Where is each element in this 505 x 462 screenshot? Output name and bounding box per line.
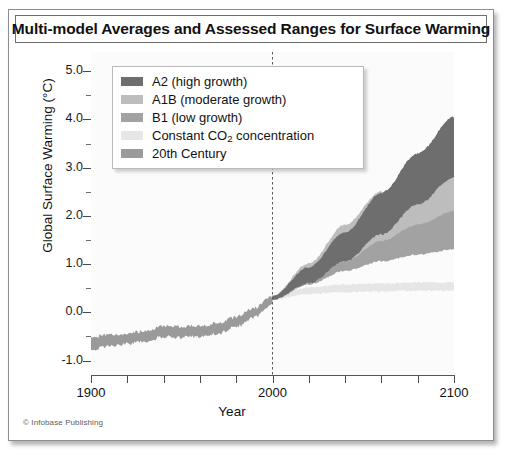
y-tick-mark-minor	[86, 336, 91, 337]
legend-swatch-icon	[121, 95, 143, 104]
legend-item: A2 (high growth)	[121, 72, 355, 90]
y-tick-mark-minor	[86, 240, 91, 241]
x-tick-mark	[418, 376, 419, 383]
y-tick-mark	[83, 119, 91, 120]
legend-swatch-icon	[121, 149, 143, 158]
y-tick-label: -1.0	[49, 353, 83, 367]
x-tick-mark	[127, 376, 128, 383]
y-tick-mark	[83, 361, 91, 362]
x-tick-label: 1900	[77, 385, 106, 400]
chart-legend: A2 (high growth)A1B (moderate growth)B1 …	[112, 66, 364, 169]
legend-swatch-icon	[121, 113, 143, 122]
x-axis-label-text: Year	[218, 404, 245, 419]
x-tick-mark	[200, 376, 201, 383]
x-tick-mark	[236, 376, 237, 383]
series-band	[91, 295, 273, 351]
y-tick-mark-minor	[86, 288, 91, 289]
x-tick-mark	[164, 376, 165, 383]
legend-item: Constant CO2 concentration	[121, 126, 355, 144]
legend-item-label: A1B (moderate growth)	[152, 92, 286, 107]
figure-title-bar: Multi-model Averages and Assessed Ranges…	[15, 15, 487, 43]
x-tick-label: 2000	[258, 385, 287, 400]
y-tick-mark-minor	[86, 192, 91, 193]
legend-item-label: Constant CO2 concentration	[152, 128, 314, 143]
legend-item-label: A2 (high growth)	[152, 74, 247, 89]
copyright-notice: © Infobase Publishing	[23, 418, 103, 427]
legend-item: A1B (moderate growth)	[121, 90, 355, 108]
y-tick-mark	[83, 168, 91, 169]
x-tick-label: 2100	[440, 385, 469, 400]
y-tick-mark	[83, 312, 91, 313]
y-tick-mark	[83, 216, 91, 217]
x-tick-mark	[309, 376, 310, 383]
x-tick-mark	[273, 376, 274, 383]
y-tick-mark-minor	[86, 95, 91, 96]
legend-item: B1 (low growth)	[121, 108, 355, 126]
figure-card: Multi-model Averages and Assessed Ranges…	[8, 9, 494, 441]
y-axis-label: Global Surface Warming (°C)	[40, 66, 55, 266]
legend-swatch-icon	[121, 131, 143, 140]
y-tick-mark	[83, 264, 91, 265]
legend-item-label: B1 (low growth)	[152, 110, 242, 125]
x-axis-label: Year	[9, 404, 495, 419]
x-tick-mark	[345, 376, 346, 383]
y-tick-mark	[83, 71, 91, 72]
y-tick-label: 0.0	[49, 304, 83, 318]
x-tick-mark	[91, 376, 92, 383]
legend-item-label: 20th Century	[152, 146, 226, 161]
x-tick-mark	[454, 376, 455, 383]
legend-swatch-icon	[121, 77, 143, 86]
page-title: Multi-model Averages and Assessed Ranges…	[12, 20, 490, 38]
x-tick-mark	[381, 376, 382, 383]
y-tick-mark-minor	[86, 144, 91, 145]
legend-item: 20th Century	[121, 144, 355, 162]
